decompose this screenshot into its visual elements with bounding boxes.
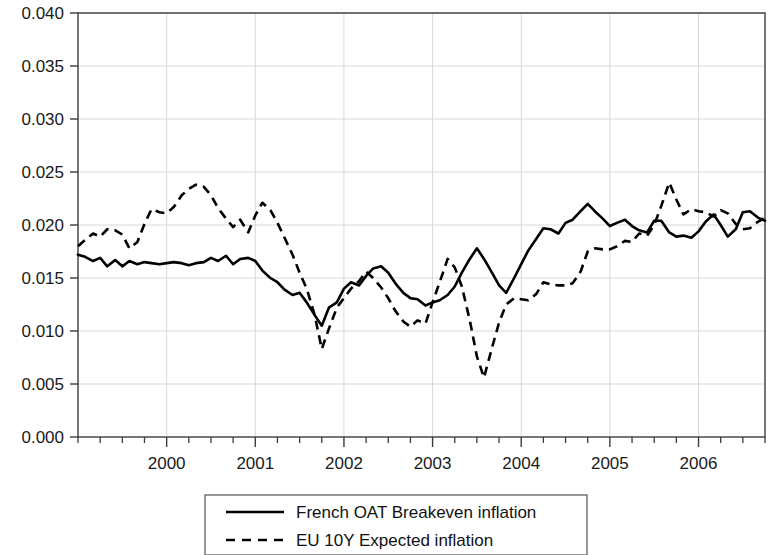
- y-tick-label: 0.015: [21, 269, 64, 288]
- y-tick-label: 0.020: [21, 216, 64, 235]
- y-tick-label: 0.010: [21, 322, 64, 341]
- chart-legend: French OAT Breakeven inflation EU 10Y Ex…: [205, 495, 587, 555]
- y-tick-label: 0.025: [21, 163, 64, 182]
- legend-label-french-oat-breakeven-inflation: French OAT Breakeven inflation: [296, 503, 536, 522]
- y-axis-tick-labels: 0.0000.0050.0100.0150.0200.0250.0300.035…: [21, 4, 64, 447]
- y-tick-label: 0.035: [21, 57, 64, 76]
- x-tick-label: 2002: [325, 454, 363, 473]
- x-tick-label: 2003: [414, 454, 452, 473]
- x-tick-label: 2001: [236, 454, 274, 473]
- y-tick-label: 0.030: [21, 110, 64, 129]
- y-tick-label: 0.000: [21, 428, 64, 447]
- x-tick-label: 2005: [591, 454, 629, 473]
- x-tick-label: 2004: [502, 454, 540, 473]
- y-tick-label: 0.040: [21, 4, 64, 23]
- inflation-line-chart: 0.0000.0050.0100.0150.0200.0250.0300.035…: [0, 0, 775, 555]
- x-tick-label: 2000: [148, 454, 186, 473]
- y-tick-label: 0.005: [21, 375, 64, 394]
- x-tick-label: 2006: [680, 454, 718, 473]
- legend-label-eu-10y-expected-inflation: EU 10Y Expected inflation: [296, 531, 493, 550]
